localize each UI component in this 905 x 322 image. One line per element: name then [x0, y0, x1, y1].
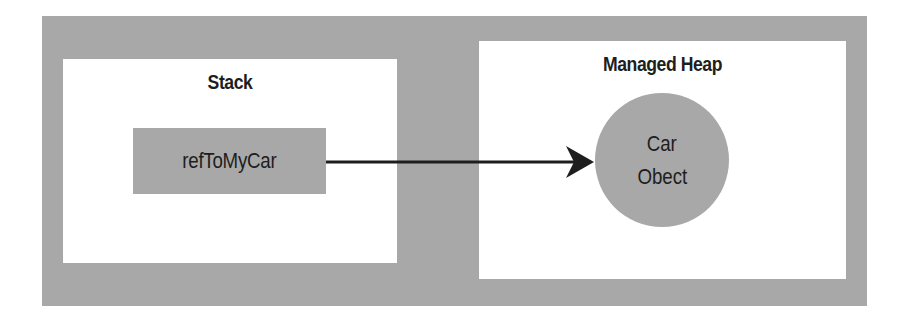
car-object-label-line1: Car: [647, 127, 677, 160]
car-object-node: Car Obect: [595, 93, 729, 227]
reference-arrow-icon: [0, 0, 905, 322]
car-object-label-line2: Obect: [637, 160, 687, 193]
